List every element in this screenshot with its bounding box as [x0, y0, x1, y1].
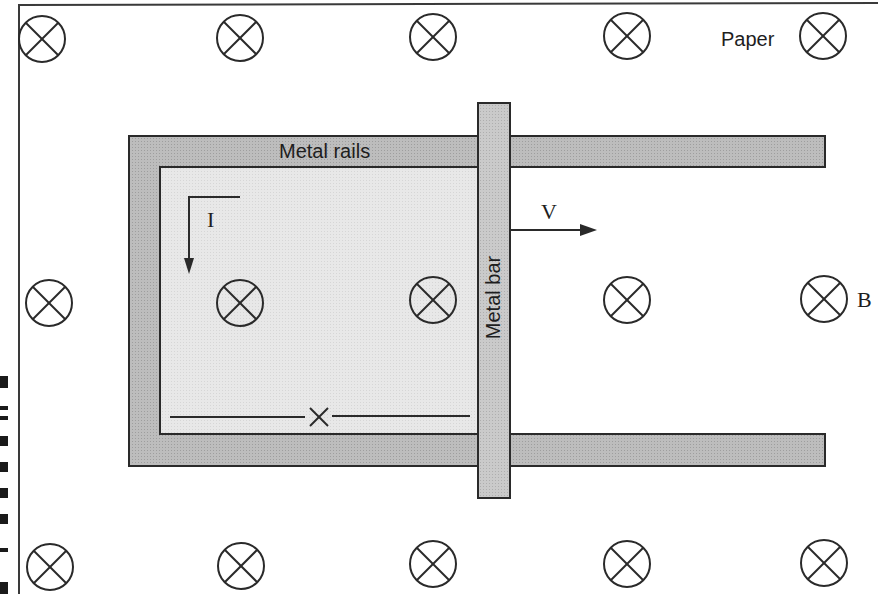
field-label: B [857, 287, 872, 313]
diagram-canvas: Paper Metal rails I V B Metal bar [0, 0, 878, 594]
current-label: I [207, 207, 214, 233]
field-into-page-icon [604, 13, 650, 59]
paper-label: Paper [721, 28, 774, 51]
field-into-page-icon [19, 16, 65, 62]
field-into-page-icon [604, 541, 650, 587]
field-into-page-icon [604, 277, 650, 323]
truncated-caption-strip [0, 370, 10, 594]
field-into-page-icon [801, 276, 847, 322]
field-into-page-icon [801, 540, 847, 586]
field-into-page-icon [26, 280, 72, 326]
rails-label: Metal rails [279, 140, 370, 163]
field-into-page-icon [217, 15, 263, 61]
field-into-page-icon [27, 544, 73, 590]
field-into-page-icon [218, 543, 264, 589]
field-into-page-icon [410, 541, 456, 587]
bar-label: Metal bar [483, 255, 506, 338]
field-into-page-icon [800, 13, 846, 59]
velocity-arrow [510, 224, 597, 236]
diagram-svg [0, 0, 878, 594]
field-into-page-icon [410, 14, 456, 60]
bar-label-container: Metal bar [481, 212, 507, 382]
velocity-label: V [541, 199, 557, 225]
